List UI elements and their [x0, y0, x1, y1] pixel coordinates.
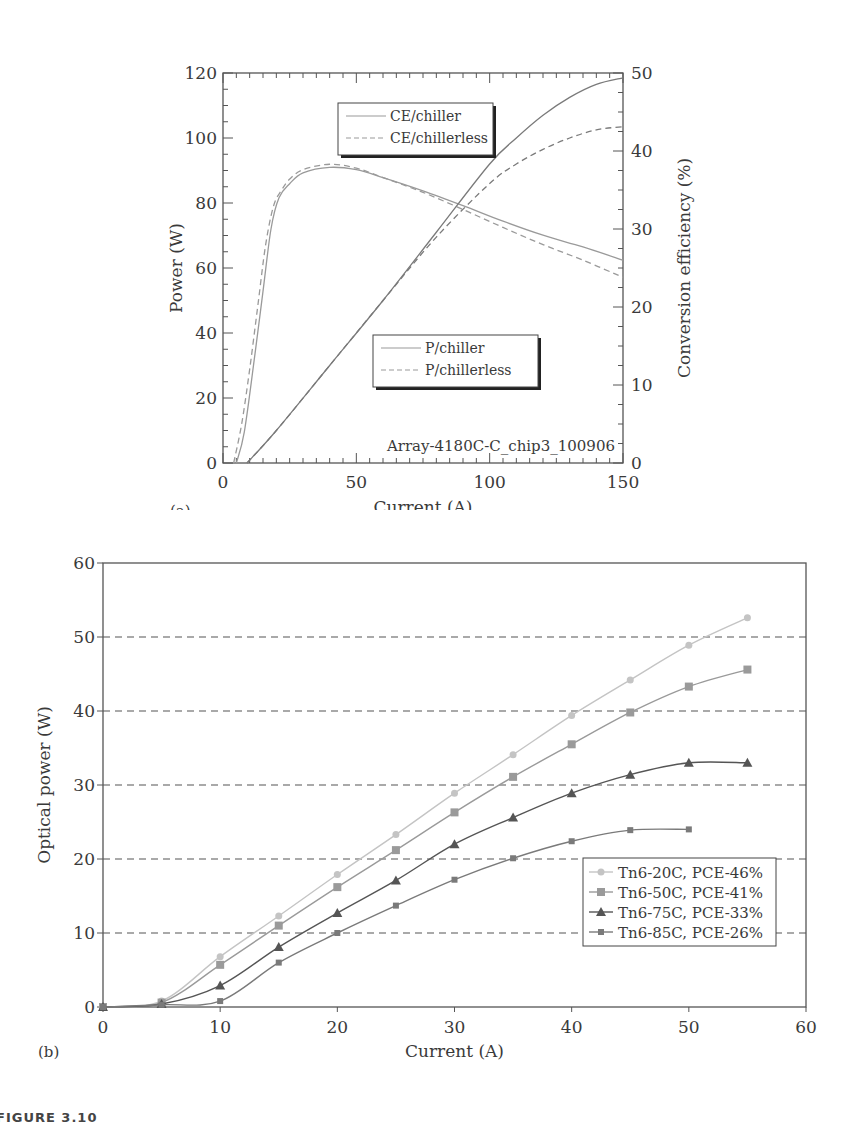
x-tick-label: 0 — [98, 1017, 109, 1037]
x-axis-label: Current (A) — [405, 1041, 504, 1061]
x-tick-label: 40 — [561, 1017, 583, 1037]
x-tick-label: 0 — [218, 472, 229, 492]
y-tick-label: 60 — [195, 258, 217, 278]
series-line — [236, 167, 623, 463]
panel-label: (a) — [170, 502, 191, 510]
y-tick-label: 0 — [84, 997, 95, 1017]
x-tick-label: 100 — [473, 472, 505, 492]
legend-entry: Tn6-85C, PCE-26% — [618, 924, 763, 942]
y2-tick-label: 50 — [631, 63, 653, 83]
y-axis-label: Optical power (W) — [34, 706, 54, 864]
y-tick-label: 0 — [206, 453, 217, 473]
x-tick-label: 150 — [607, 472, 639, 492]
y-tick-label: 20 — [73, 849, 95, 869]
y-tick-label: 120 — [185, 63, 217, 83]
y-tick-label: 60 — [73, 553, 95, 573]
x-tick-label: 50 — [678, 1017, 700, 1037]
y-tick-label: 40 — [73, 701, 95, 721]
chart-annotation: Array-4180C-C_chip3_100906 — [386, 437, 615, 455]
x-tick-label: 10 — [209, 1017, 231, 1037]
legend-entry: P/chillerless — [425, 362, 512, 378]
y2-tick-label: 30 — [631, 219, 653, 239]
x-tick-label: 30 — [444, 1017, 466, 1037]
data-series — [100, 614, 751, 1010]
y-tick-label: 50 — [73, 627, 95, 647]
legend-entry: Tn6-50C, PCE-41% — [618, 884, 763, 902]
y2-axis-label: Conversion efficiency (%) — [674, 158, 694, 378]
y2-tick-label: 0 — [631, 453, 642, 473]
y-tick-label: 20 — [195, 388, 217, 408]
x-tick-label: 60 — [795, 1017, 817, 1037]
y-axis-label: Power (W) — [166, 223, 186, 313]
x-tick-label: 20 — [327, 1017, 349, 1037]
y-tick-label: 30 — [73, 775, 95, 795]
series-line — [234, 164, 623, 463]
legend-entry: CE/chillerless — [390, 130, 488, 146]
legend-entry: Tn6-75C, PCE-33% — [618, 904, 763, 922]
y-tick-label: 10 — [73, 923, 95, 943]
data-series — [99, 666, 751, 1011]
y-tick-label: 80 — [195, 193, 217, 213]
y-tick-label: 100 — [185, 128, 217, 148]
x-tick-label: 50 — [346, 472, 368, 492]
panel-label: (b) — [38, 1043, 59, 1061]
chart-b-optical-power: 01020304050600102030405060Current (A)Opt… — [0, 510, 853, 1110]
y2-tick-label: 20 — [631, 297, 653, 317]
y2-tick-label: 40 — [631, 141, 653, 161]
x-axis-label: Current (A) — [374, 497, 473, 510]
legend-entry: P/chiller — [425, 340, 485, 356]
legend-entry: Tn6-20C, PCE-46% — [618, 864, 763, 882]
y2-tick-label: 10 — [631, 375, 653, 395]
figure-caption: FIGURE 3.10 — [0, 1110, 97, 1122]
series-line — [247, 127, 623, 463]
y-tick-label: 40 — [195, 323, 217, 343]
chart-a-power-efficiency: 02040608010012001020304050050100150Curre… — [0, 0, 853, 510]
legend-entry: CE/chiller — [390, 108, 461, 124]
